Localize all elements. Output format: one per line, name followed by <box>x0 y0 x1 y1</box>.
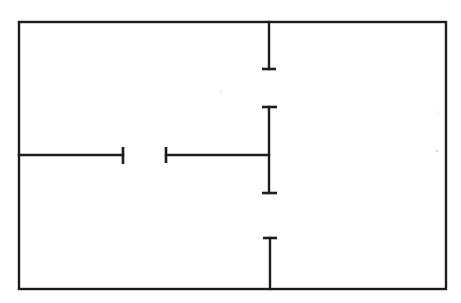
floor-plan-diagram <box>0 0 461 303</box>
interior-walls <box>19 22 270 289</box>
speck <box>438 112 439 113</box>
speck <box>220 90 221 91</box>
wall-end-caps <box>123 69 277 238</box>
scan-specks <box>220 90 438 151</box>
speck <box>436 150 438 152</box>
